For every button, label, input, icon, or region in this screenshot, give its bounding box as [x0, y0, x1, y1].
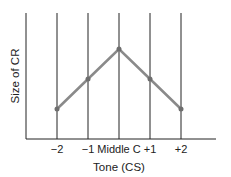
chart: −2−1Middle C+1+2 Tone (CS) Size of CR [0, 0, 231, 177]
x-axis-label: Tone (CS) [93, 161, 145, 173]
data-point [117, 47, 122, 52]
data-point [179, 107, 184, 112]
data-point [86, 77, 91, 82]
x-tick-label: −2 [51, 143, 64, 155]
x-tick-label: +1 [144, 143, 157, 155]
y-axis-label: Size of CR [9, 49, 21, 104]
x-tick-label: −1 [82, 143, 95, 155]
data-point [148, 77, 153, 82]
x-tick-label: Middle C [97, 143, 140, 155]
data-point [55, 107, 60, 112]
x-tick-label: +2 [175, 143, 188, 155]
